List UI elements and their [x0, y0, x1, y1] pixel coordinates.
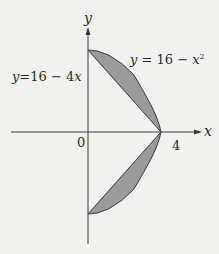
y-axis-label: y — [83, 10, 93, 26]
y-axis-arrow-icon — [86, 27, 91, 35]
parabola-equation-label: y = 16 − x2 — [129, 52, 205, 67]
shaded-region-lower — [88, 132, 161, 214]
x-axis-arrow-icon — [194, 130, 202, 135]
line-equation-label: y=16 − 4x — [11, 69, 82, 84]
x-axis-label: x — [204, 123, 212, 139]
region-diagram: y x 0 4 y = 16 − x2 y=16 − 4x — [0, 0, 219, 254]
x-tick-label-4: 4 — [172, 138, 180, 153]
origin-label: 0 — [77, 135, 85, 150]
